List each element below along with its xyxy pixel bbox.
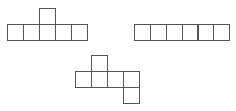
unit-square <box>92 72 108 88</box>
unit-square <box>8 25 24 41</box>
unit-square <box>124 88 140 104</box>
cube-net-2 <box>135 25 230 41</box>
diagram-canvas <box>0 0 236 111</box>
unit-square <box>183 25 199 41</box>
unit-square <box>40 25 56 41</box>
unit-square <box>56 25 72 41</box>
unit-square <box>72 25 88 41</box>
unit-square <box>92 56 108 72</box>
unit-square <box>214 25 230 41</box>
unit-square <box>24 25 40 41</box>
unit-square <box>124 72 140 88</box>
unit-square <box>151 25 167 41</box>
unit-square <box>40 9 56 25</box>
unit-square <box>76 72 92 88</box>
unit-square <box>167 25 183 41</box>
unit-square <box>198 25 214 41</box>
unit-square <box>108 72 124 88</box>
cube-net-3 <box>76 56 140 104</box>
cube-net-1 <box>8 9 88 41</box>
unit-square <box>135 25 151 41</box>
